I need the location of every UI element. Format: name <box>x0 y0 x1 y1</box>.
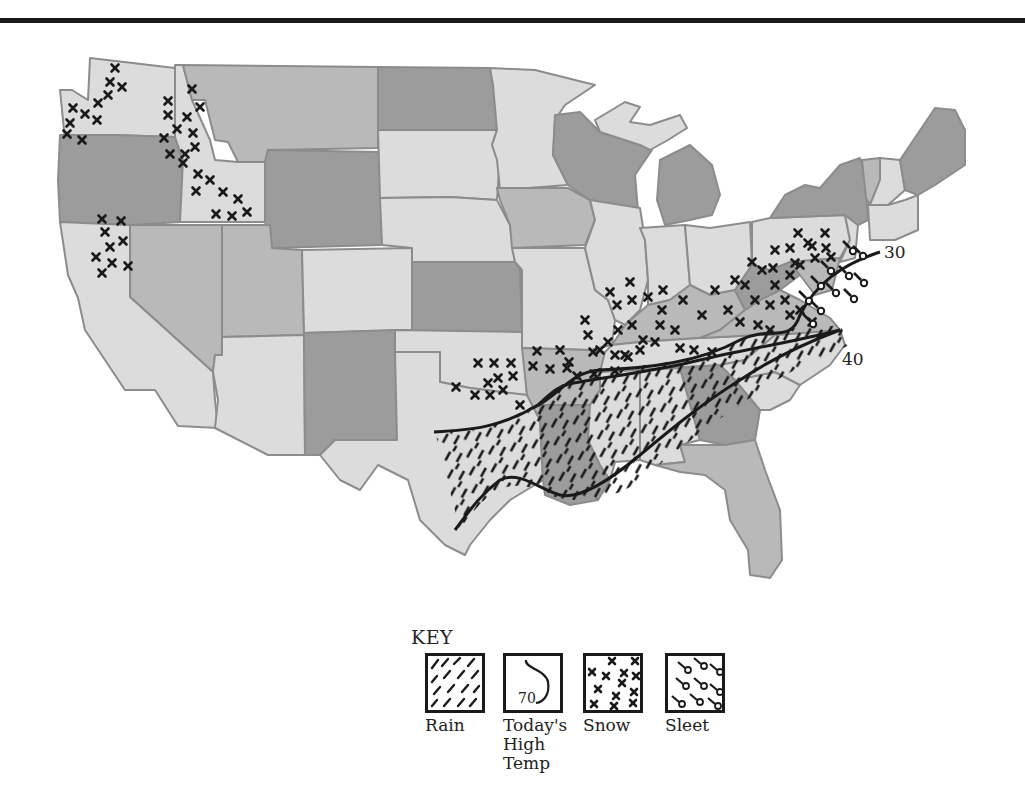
key-item-sleet: Sleet <box>665 653 735 735</box>
state-arizona <box>213 335 305 455</box>
state-oregon <box>58 135 183 225</box>
key-title: KEY <box>411 626 453 648</box>
state-maine <box>900 108 965 195</box>
state-new-york <box>770 158 868 225</box>
key-label-snow: Snow <box>583 716 653 735</box>
isotherm-label-40: 40 <box>842 349 864 369</box>
key-label-sleet: Sleet <box>665 716 735 735</box>
sleet-symbol-icon <box>665 653 725 713</box>
state-north-dakota <box>378 67 497 130</box>
state-michigan-lower <box>657 145 720 225</box>
rain-symbol-icon <box>425 653 485 713</box>
state-south-dakota <box>378 130 500 200</box>
state-new-mexico <box>304 330 397 455</box>
state-wyoming <box>265 150 382 248</box>
isotherm-sample-value: 70 <box>518 690 536 706</box>
key-item-rain: Rain <box>425 653 495 735</box>
key-item-snow: Snow <box>583 653 653 735</box>
isotherm-symbol-icon: 70 <box>503 653 563 713</box>
key-label-rain: Rain <box>425 716 495 735</box>
us-weather-map: 30 40 <box>0 0 1025 600</box>
state-iowa <box>497 188 595 248</box>
state-kansas <box>412 262 522 332</box>
states <box>58 58 965 578</box>
snow-symbol-icon <box>583 653 643 713</box>
state-colorado <box>302 248 412 333</box>
isotherm-label-30: 30 <box>884 242 906 262</box>
key-item-high-temp: 70 Today's High Temp <box>503 653 573 773</box>
key-label-high-temp: Today's High Temp <box>503 716 573 773</box>
